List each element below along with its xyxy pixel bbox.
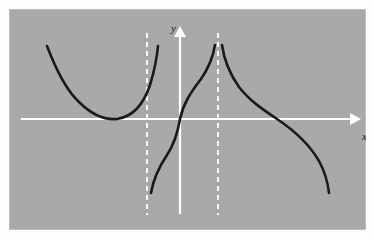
x-axis-label: x	[362, 131, 366, 142]
x-axis-arrowhead	[350, 113, 361, 125]
plot-panel: y x	[9, 9, 366, 230]
figure-caption	[3, 231, 123, 240]
asymptote-group	[147, 33, 218, 215]
y-axis-label: y	[171, 23, 176, 34]
plot-canvas	[9, 9, 366, 230]
figure-root: y x	[0, 0, 374, 241]
curve-left-branch	[47, 46, 158, 119]
axis-group	[21, 26, 361, 214]
